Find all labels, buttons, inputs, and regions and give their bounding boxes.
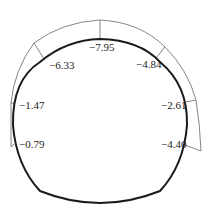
radial-right-shoulder <box>156 47 165 58</box>
envelope-closure-right <box>185 145 201 151</box>
label-left-wall-upper: −1.47 <box>19 99 45 111</box>
label-crown: −7.95 <box>89 41 115 53</box>
label-right-wall-upper: −2.61 <box>161 99 186 111</box>
tunnel-diagram: −7.95 −6.33 −4.84 −1.47 −0.79 −2.61 −4.4… <box>0 0 208 214</box>
radial-left-shoulder <box>34 43 44 59</box>
label-right-wall-lower: −4.40 <box>161 138 187 150</box>
label-right-shoulder: −4.84 <box>136 58 162 70</box>
label-left-shoulder: −6.33 <box>49 59 75 71</box>
label-left-wall-lower: −0.79 <box>19 138 45 150</box>
radial-right-wall-upper <box>186 100 196 102</box>
